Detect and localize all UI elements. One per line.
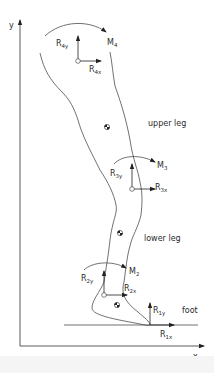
ground-reaction: R1y R1x	[150, 303, 174, 340]
hip-joint: M4 R4y R4x	[45, 23, 118, 75]
label-m4: M4	[107, 38, 118, 48]
joint-center-hip	[76, 59, 81, 64]
leg-free-body-diagram: y x M4 R4y R4x M	[0, 0, 214, 373]
coordinate-axes: y x	[9, 20, 204, 361]
label-m2: M2	[129, 267, 139, 277]
label-r3y: R3y	[110, 169, 123, 180]
center-of-mass-upper-leg	[104, 124, 109, 129]
center-of-mass-lower-leg	[117, 230, 122, 235]
label-r1x: R1x	[160, 330, 173, 340]
moment-arrow-m4	[45, 23, 106, 36]
label-r3x: R3x	[155, 183, 168, 193]
label-foot: foot	[182, 306, 198, 315]
joint-center-knee	[130, 187, 135, 192]
joint-center-ankle	[102, 293, 107, 298]
label-r4x: R4x	[89, 65, 102, 75]
label-lower-leg: lower leg	[144, 234, 181, 243]
y-axis-label: y	[9, 21, 14, 30]
label-upper-leg: upper leg	[148, 119, 186, 128]
ankle-joint: M2 R2y R2x	[81, 263, 139, 297]
center-of-mass-foot	[114, 302, 119, 307]
bottom-band	[0, 356, 214, 373]
label-r1y: R1y	[153, 306, 166, 317]
label-r4y: R4y	[56, 39, 69, 50]
moment-arrow-m2	[84, 263, 126, 270]
label-r2y: R2y	[81, 274, 94, 285]
label-m3: M3	[157, 161, 168, 171]
label-r2x: R2x	[124, 284, 137, 294]
knee-joint: M3 R3y R3x	[110, 157, 168, 193]
